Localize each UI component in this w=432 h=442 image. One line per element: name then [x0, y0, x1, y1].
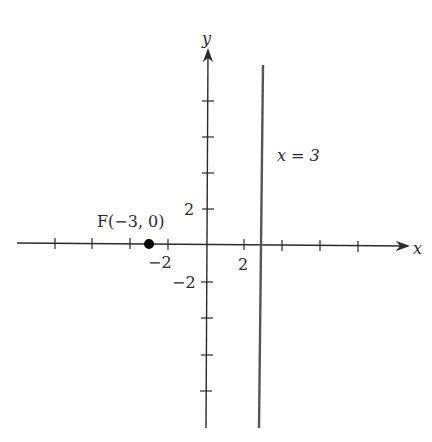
- y-axis-label: y: [201, 29, 212, 48]
- x-tick-label-neg: −2: [148, 253, 172, 272]
- directrix-label: x = 3: [277, 146, 320, 165]
- focus-point: [144, 239, 154, 249]
- focus-label: F(−3, 0): [97, 212, 165, 231]
- x-axis-label: x: [413, 239, 422, 258]
- coordinate-plane: y x 2 −2 −2 2 F(−3, 0) x = 3: [0, 0, 432, 442]
- x-tick-label-pos: 2: [238, 255, 248, 274]
- x-axis: [17, 243, 408, 246]
- directrix-line: [259, 65, 263, 428]
- y-tick-label-pos: 2: [184, 200, 194, 219]
- y-tick-label-neg: −2: [172, 273, 196, 292]
- y-axis: [206, 50, 208, 428]
